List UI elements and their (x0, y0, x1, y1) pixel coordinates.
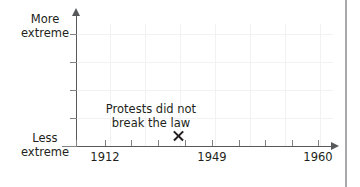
x-axis-tick (131, 140, 132, 146)
x-axis-tick (158, 140, 159, 146)
x-axis-tick (105, 140, 106, 146)
x-axis-tick-label-1949: 1949 (197, 150, 226, 164)
gridline-vertical (285, 24, 286, 146)
plot-annotation-line1: Protests did not (97, 103, 205, 117)
page-edge-rule (345, 0, 347, 187)
plot-annotation-line2: break the law (97, 117, 205, 131)
gridline-horizontal (76, 34, 333, 35)
gridline-horizontal (76, 90, 333, 91)
y-axis-tick (70, 90, 77, 91)
x-axis-tick (76, 140, 77, 146)
x-axis-tick (212, 140, 213, 146)
y-axis-label-more-extreme: More extreme (21, 13, 69, 40)
y-axis-label-less-extreme-line2: extreme (21, 146, 69, 160)
x-axis-tick (239, 140, 240, 146)
y-axis-tick (70, 118, 77, 119)
plot-annotation: Protests did not break the law (97, 103, 205, 130)
y-axis-label-less-extreme: Less extreme (21, 132, 69, 159)
data-point-x-marker (172, 129, 185, 142)
y-axis-label-more-extreme-line1: More (21, 13, 69, 27)
x-axis-tick (185, 140, 186, 146)
y-axis-arrow-icon (72, 8, 80, 16)
y-axis-label-less-extreme-line1: Less (21, 132, 69, 146)
y-axis-tick (70, 62, 77, 63)
gridline-horizontal (76, 62, 333, 63)
x-axis-tick (265, 140, 266, 146)
gridline-vertical (250, 24, 251, 146)
x-axis-tick (292, 140, 293, 146)
y-axis-line (76, 16, 77, 146)
gridline-vertical (215, 24, 216, 146)
x-axis-tick-label-1960: 1960 (303, 150, 332, 164)
gridline-vertical (320, 24, 321, 146)
x-axis-line (76, 146, 333, 147)
x-axis-tick (318, 140, 319, 146)
chart-figure: 1912 1949 1960 More extreme Less extreme… (0, 0, 360, 187)
x-axis-tick-label-1912: 1912 (90, 150, 119, 164)
x-axis-arrow-icon (331, 142, 339, 150)
y-axis-tick (70, 34, 77, 35)
y-axis-label-more-extreme-line2: extreme (21, 27, 69, 41)
